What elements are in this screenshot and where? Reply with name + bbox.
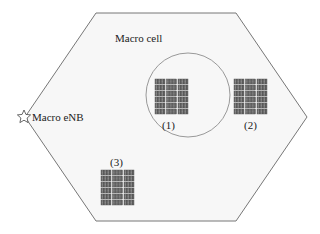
macro-cell-label: Macro cell (115, 33, 162, 44)
macro-enb-label: Macro eNB (32, 112, 84, 123)
cluster-label-3: (3) (110, 157, 123, 168)
cluster-label-2: (2) (244, 120, 257, 131)
cluster-label-1: (1) (162, 120, 175, 131)
